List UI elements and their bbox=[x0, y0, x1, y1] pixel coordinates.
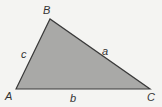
side-label-a: a bbox=[102, 45, 108, 57]
side-label-b: b bbox=[70, 92, 76, 104]
triangle-diagram: A B C a b c bbox=[0, 0, 162, 107]
vertex-label-c: C bbox=[147, 91, 155, 103]
triangle-shape bbox=[16, 19, 150, 89]
side-label-c: c bbox=[21, 48, 27, 60]
vertex-label-b: B bbox=[43, 4, 50, 16]
vertex-label-a: A bbox=[4, 90, 12, 102]
